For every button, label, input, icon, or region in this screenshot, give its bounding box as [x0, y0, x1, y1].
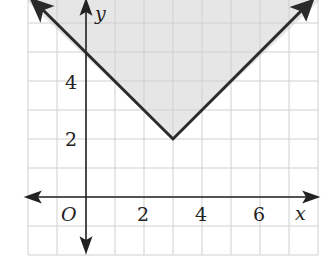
- y-axis-label: y: [94, 2, 106, 24]
- x-tick-2: 2: [137, 203, 149, 225]
- x-axis-label: x: [295, 202, 306, 224]
- y-tick-4: 4: [65, 71, 77, 93]
- origin-label: O: [61, 203, 77, 225]
- x-tick-4: 4: [195, 203, 207, 225]
- inequality-graph: y x O 2 4 6 2 4: [0, 0, 334, 279]
- y-tick-2: 2: [65, 128, 77, 150]
- x-tick-6: 6: [253, 203, 265, 225]
